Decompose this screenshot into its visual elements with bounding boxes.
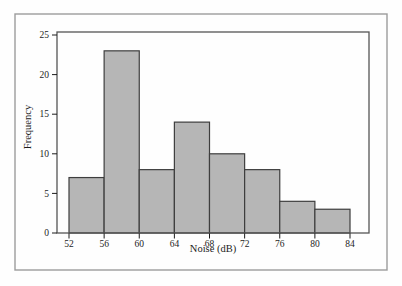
y-axis-title: Frequency (22, 104, 33, 149)
bars-group (69, 51, 350, 233)
x-tick-label: 76 (275, 239, 285, 249)
y-tick-label: 5 (44, 189, 49, 199)
bar-76-80 (280, 201, 315, 233)
bar-80-84 (315, 209, 350, 233)
bar-60-64 (139, 170, 174, 233)
bar-52-56 (69, 178, 104, 233)
bar-56-60 (104, 51, 139, 233)
x-tick-label: 80 (310, 239, 320, 249)
x-tick-label: 64 (170, 239, 180, 249)
x-axis-title: Noise (dB) (190, 243, 237, 255)
x-tick-label: 60 (135, 239, 145, 249)
y-axis-ticks: 0510152025 (40, 30, 58, 238)
figure-container: 525660646872768084 0510152025 Noise (dB)… (0, 0, 402, 286)
bar-68-72 (210, 154, 245, 233)
y-tick-label: 10 (40, 149, 50, 159)
x-tick-label: 56 (99, 239, 109, 249)
y-tick-label: 20 (40, 70, 50, 80)
histogram-chart: 525660646872768084 0510152025 Noise (dB)… (0, 0, 402, 286)
y-tick-label: 25 (40, 30, 50, 40)
bar-72-76 (245, 170, 280, 233)
y-tick-label: 0 (44, 228, 49, 238)
x-tick-label: 84 (345, 239, 355, 249)
y-tick-label: 15 (40, 109, 50, 119)
x-tick-label: 72 (240, 239, 250, 249)
bar-64-68 (174, 122, 209, 233)
x-tick-label: 52 (64, 239, 74, 249)
